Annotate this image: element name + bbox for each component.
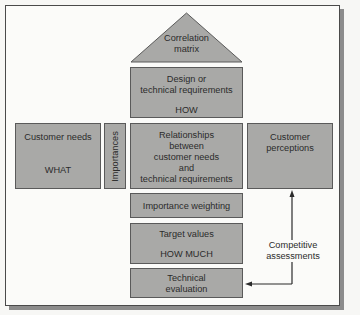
competitive-line-1: Competitive xyxy=(258,240,328,251)
arrow-left-icon xyxy=(245,282,252,287)
competitive-assessments-label: Competitive assessments xyxy=(258,240,328,262)
arrow-up-icon xyxy=(290,190,295,197)
competitive-line-2: assessments xyxy=(258,251,328,262)
competitive-assessments-arrows xyxy=(0,0,360,315)
